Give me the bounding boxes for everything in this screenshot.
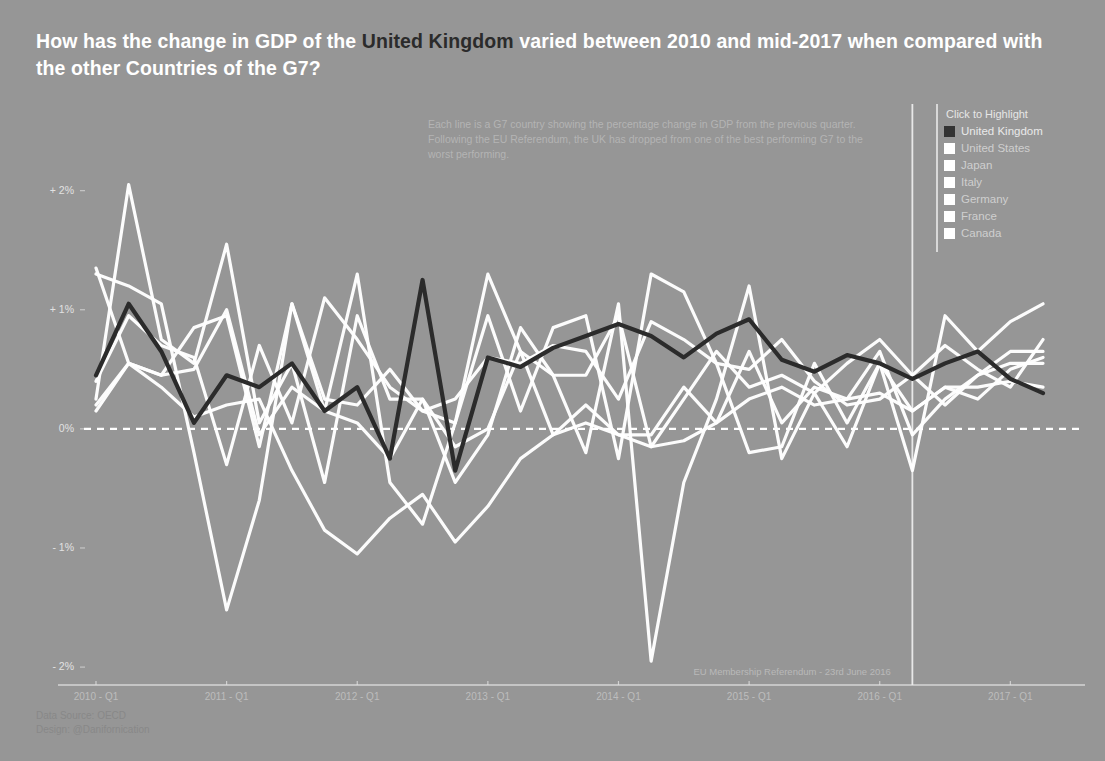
x-axis-tick-label: 2010 - Q1 [51,691,141,702]
annotation-line-1: Each line is a G7 country showing the pe… [428,117,940,132]
legend-item-united-kingdom[interactable]: United Kingdom [944,123,1064,139]
x-axis-tick-label: 2013 - Q1 [443,691,533,702]
footer-credits: Data Source: OECD Design: @Danifornicati… [36,709,150,737]
y-axis-tick-label: + 1% [28,303,74,315]
legend-swatch-icon [944,160,955,171]
x-axis-tick-label: 2015 - Q1 [704,691,794,702]
series-line-japan[interactable] [96,274,1043,661]
chart-annotation: Each line is a G7 country showing the pe… [428,117,940,162]
legend-title: Click to Highlight [946,108,1064,120]
gdp-line-chart [0,0,1105,761]
y-axis-tick-label: - 1% [28,541,74,553]
infographic-root: How has the change in GDP of the United … [0,0,1105,761]
legend-swatch-icon [944,177,955,188]
data-source-label: Data Source: OECD [36,709,150,723]
legend-swatch-icon [944,143,955,154]
chart-plot-area [0,0,1105,761]
legend-item-label: Italy [961,176,982,188]
x-axis-tick-label: 2012 - Q1 [312,691,402,702]
legend-swatch-icon [944,228,955,239]
legend-item-label: United States [961,142,1030,154]
referendum-annotation-label: EU Membership Referendum - 23rd June 201… [693,666,891,677]
legend-divider [936,104,938,252]
legend-swatch-icon [944,211,955,222]
legend-item-label: Japan [961,159,992,171]
legend-item-japan[interactable]: Japan [944,157,1064,173]
legend-item-italy[interactable]: Italy [944,174,1064,190]
annotation-line-2: Following the EU Referendum, the UK has … [428,132,940,147]
legend-item-france[interactable]: France [944,208,1064,224]
legend-item-germany[interactable]: Germany [944,191,1064,207]
legend-item-label: United Kingdom [961,125,1043,137]
annotation-line-3: worst performing. [428,147,940,162]
legend-item-canada[interactable]: Canada [944,225,1064,241]
x-axis-tick-label: 2014 - Q1 [573,691,663,702]
legend: Click to Highlight United KingdomUnited … [944,108,1064,242]
x-axis-tick-label: 2011 - Q1 [182,691,272,702]
legend-item-label: France [961,210,997,222]
legend-swatch-icon [944,194,955,205]
legend-swatch-icon [944,126,955,137]
legend-item-list: United KingdomUnited StatesJapanItalyGer… [944,123,1064,241]
legend-item-label: Germany [961,193,1008,205]
y-axis-tick-label: - 2% [28,660,74,672]
legend-item-united-states[interactable]: United States [944,140,1064,156]
legend-item-label: Canada [961,227,1001,239]
x-axis-tick-label: 2017 - Q1 [965,691,1055,702]
design-credit-label: Design: @Danifornication [36,723,150,737]
y-axis-tick-label: + 2% [28,184,74,196]
y-axis-tick-label: 0% [28,422,74,434]
x-axis-tick-label: 2016 - Q1 [835,691,925,702]
